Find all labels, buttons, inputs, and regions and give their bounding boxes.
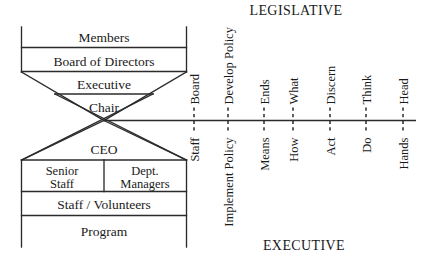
- axis-label-below-0: Staff: [188, 137, 202, 162]
- label-staff-volunteers: Staff / Volunteers: [57, 197, 151, 212]
- org-chart-labels: Members Board of Directors Executive Cha…: [46, 30, 170, 239]
- axis-label-above-4: Discern: [324, 65, 338, 105]
- label-board-of-directors: Board of Directors: [53, 54, 154, 69]
- label-program: Program: [81, 224, 128, 239]
- hourglass-governance-diagram: Members Board of Directors Executive Cha…: [0, 0, 435, 257]
- label-chair: Chair: [89, 100, 119, 115]
- axis-label-above-3: What: [287, 77, 301, 105]
- label-dept-managers-line1: Dept.: [131, 164, 158, 178]
- heading-executive: EXECUTIVE: [263, 238, 345, 253]
- label-members: Members: [79, 30, 130, 45]
- label-ceo: CEO: [91, 142, 118, 157]
- axis-label-below-3: How: [287, 138, 301, 162]
- label-senior-staff-line1: Senior: [46, 164, 79, 178]
- axis-label-below-2: Means: [258, 137, 272, 170]
- label-dept-managers-line2: Managers: [120, 177, 169, 191]
- axis-label-above-2: Ends: [258, 79, 272, 104]
- axis-label-below-4: Act: [324, 137, 338, 156]
- heading-legislative: LEGISLATIVE: [249, 3, 342, 18]
- axis-tick-labels-below: StaffImplement PolicyMeansHowActDoHands: [188, 137, 411, 227]
- axis-label-above-5: Think: [360, 74, 374, 105]
- axis-label-above-6: Head: [397, 77, 411, 104]
- axis-label-above-1: Develop Policy: [222, 26, 236, 104]
- figure-canvas: Members Board of Directors Executive Cha…: [0, 0, 435, 257]
- axis-label-below-6: Hands: [397, 137, 411, 169]
- label-senior-staff-line2: Staff: [50, 177, 75, 191]
- axis-label-below-5: Do: [360, 138, 374, 153]
- axis-label-below-1: Implement Policy: [222, 137, 236, 227]
- label-executive: Executive: [77, 77, 131, 92]
- axis-tick-labels-above: BoardDevelop PolicyEndsWhatDiscernThinkH…: [188, 26, 411, 104]
- axis-label-above-0: Board: [188, 73, 202, 104]
